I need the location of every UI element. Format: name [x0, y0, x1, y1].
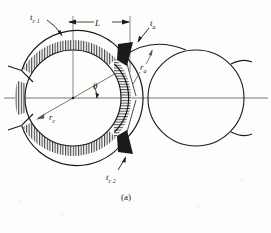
- cutter-center-point: [72, 97, 75, 100]
- label-chip-thickness-2: tc 2: [106, 172, 116, 184]
- label-length-L: L: [94, 18, 100, 28]
- label-chip-thickness-1: tc 1: [30, 12, 40, 24]
- workpiece-arc-stub-lower-right: [231, 132, 252, 136]
- diagram-canvas: tc 1 L ta ra θ rc tc 2 (a): [0, 0, 271, 233]
- workpiece-arc-stub-upper-right: [231, 60, 252, 64]
- figure-a-chip-geometry-diagram: tc 1 L ta ra θ rc tc 2 (a): [0, 0, 271, 233]
- label-arc-thickness-ta: ta: [150, 18, 156, 30]
- label-angle-theta: θ: [93, 81, 98, 91]
- figure-caption: (a): [121, 192, 131, 202]
- diagram-linework: tc 1 L ta ra θ rc tc 2 (a): [4, 12, 268, 202]
- dimension-arrow-right: [122, 20, 130, 25]
- dimension-arrow-left: [68, 20, 76, 25]
